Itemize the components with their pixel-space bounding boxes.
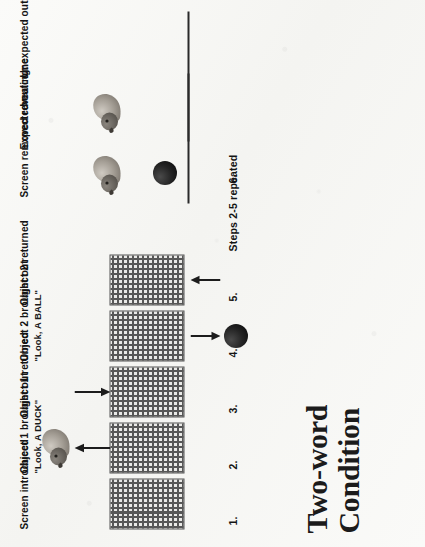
screen-icon-step-1 <box>109 478 184 529</box>
outcome-separator-label: or <box>18 97 28 106</box>
repeat-note: Steps 2-5 repeated <box>226 154 238 251</box>
page-title-line-2: Condition <box>332 283 364 533</box>
figure-rotated-frame: Two-word Condition 1. 2. 3. 4. 5. 6. Ste… <box>0 0 425 547</box>
step-number-1: 1. <box>226 516 238 525</box>
unexpected-outcome-label: Unexpected outcome <box>18 0 29 77</box>
arrow-up-icon-step-5 <box>190 274 224 285</box>
figure-page: Two-word Condition 1. 2. 3. 4. 5. 6. Ste… <box>0 0 425 547</box>
step-quote-4: "Look, A BALL" <box>32 289 42 361</box>
step-number-5: 5. <box>226 292 238 301</box>
screen-icon-step-5 <box>109 254 184 305</box>
ball-icon-step-4 <box>223 323 248 348</box>
step-quote-2: "Look, A DUCK" <box>32 399 42 473</box>
page-title-line-1: Two-word <box>300 283 332 533</box>
ball-icon-expected-outcome <box>152 160 177 185</box>
screen-icon-step-3 <box>109 366 184 417</box>
arrow-up-icon-step-2 <box>74 442 114 453</box>
page-title: Two-word Condition <box>300 283 364 533</box>
screen-icon-step-4 <box>109 310 184 361</box>
arrow-down-icon-step-3 <box>74 386 114 397</box>
duck-icon-expected-outcome <box>88 153 122 195</box>
screen-icon-step-2 <box>109 422 184 473</box>
step-number-3: 3. <box>226 404 238 413</box>
stage-line-icon-unexpected-outcome <box>187 11 189 141</box>
arrow-down-icon-step-4 <box>190 330 224 341</box>
step-number-4: 4. <box>226 348 238 357</box>
duck-icon-unexpected-outcome <box>88 91 122 133</box>
step-label-5: Object 2 returned <box>18 220 29 305</box>
step-number-2: 2. <box>226 460 238 469</box>
